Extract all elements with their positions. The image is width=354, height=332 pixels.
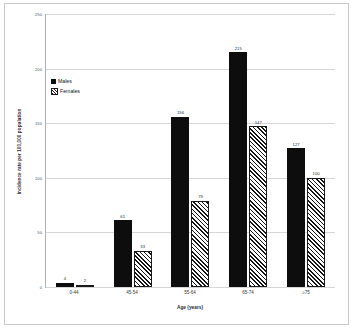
bar-group-55-64: 156 79 (162, 14, 220, 287)
bar-wrap-males-55-64: 156 (171, 14, 189, 287)
x-tick-label-65-74: 65-74 (219, 290, 277, 295)
bar-wrap-males-45-54: 61 (114, 14, 132, 287)
x-tick-label-75plus: ≥75 (277, 290, 335, 295)
bar-wrap-females-55-64: 79 (191, 14, 209, 287)
y-tick-label-200: 200 (35, 67, 42, 71)
y-tick-label-0: 0 (40, 286, 42, 290)
bar-wrap-males-0-44: 4 (56, 14, 74, 287)
bar-males-75plus[interactable] (287, 148, 305, 287)
y-axis-title-label: Incidence rate per 100,000 population (18, 108, 23, 194)
y-tick-label-150: 150 (35, 122, 42, 126)
bar-females-0-44[interactable] (76, 285, 94, 287)
bar-value-females-0-44: 2 (84, 279, 86, 283)
y-axis-title: Incidence rate per 100,000 population (14, 14, 26, 288)
bar-females-75plus[interactable] (307, 178, 325, 287)
bar-groups: 4 2 61 33 156 (46, 14, 335, 287)
bar-males-65-74[interactable] (229, 52, 247, 287)
bar-males-0-44[interactable] (56, 283, 74, 287)
bar-value-males-65-74: 215 (235, 47, 242, 51)
bar-wrap-females-0-44: 2 (76, 14, 94, 287)
bar-group-75plus: 127 100 (277, 14, 335, 287)
bar-females-45-54[interactable] (134, 251, 152, 287)
chart-figure: Incidence rate per 100,000 population 25… (0, 0, 354, 332)
y-tick-label-50: 50 (37, 231, 42, 235)
bar-males-55-64[interactable] (171, 117, 189, 287)
bar-value-males-45-54: 61 (120, 215, 125, 219)
bar-females-65-74[interactable] (249, 126, 267, 287)
bar-wrap-males-75plus: 127 (287, 14, 305, 287)
bar-group-0-44: 4 2 (46, 14, 104, 287)
bar-group-45-54: 61 33 (104, 14, 162, 287)
bar-males-45-54[interactable] (114, 220, 132, 287)
gridline-0: 0 (46, 287, 335, 288)
bar-wrap-males-65-74: 215 (229, 14, 247, 287)
bar-value-females-65-74: 147 (255, 121, 262, 125)
bar-females-55-64[interactable] (191, 201, 209, 287)
bar-value-males-75plus: 127 (293, 143, 300, 147)
plot-area: 250 200 150 100 50 0 Males Females (45, 14, 335, 288)
x-tick-label-55-64: 55-64 (161, 290, 219, 295)
x-tick-label-0-44: 0-44 (45, 290, 103, 295)
bar-wrap-females-45-54: 33 (134, 14, 152, 287)
y-tick-label-100: 100 (35, 177, 42, 181)
bar-wrap-females-75plus: 100 (307, 14, 325, 287)
bar-value-females-75plus: 100 (313, 172, 320, 176)
x-axis-title: Age (years) (45, 305, 335, 310)
bar-value-females-55-64: 79 (198, 195, 203, 199)
x-axis-tick-labels: 0-44 45-54 55-64 65-74 ≥75 (45, 290, 335, 295)
bar-value-females-45-54: 33 (140, 245, 145, 249)
y-tick-label-250: 250 (35, 13, 42, 17)
bar-group-65-74: 215 147 (219, 14, 277, 287)
bar-wrap-females-65-74: 147 (249, 14, 267, 287)
x-tick-label-45-54: 45-54 (103, 290, 161, 295)
bar-value-males-0-44: 4 (64, 277, 66, 281)
bar-value-males-55-64: 156 (177, 111, 184, 115)
